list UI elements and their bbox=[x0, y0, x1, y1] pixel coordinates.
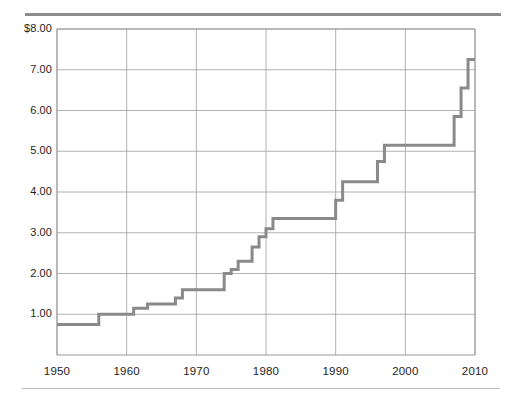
figure: 1.002.003.004.005.006.007.00$8.00 195019… bbox=[0, 0, 512, 405]
plot-area: 1.002.003.004.005.006.007.00$8.00 195019… bbox=[0, 0, 512, 405]
y-axis-tick-label: 1.00 bbox=[4, 308, 52, 319]
y-axis-tick-label: 5.00 bbox=[4, 145, 52, 156]
y-axis-tick-label: 2.00 bbox=[4, 268, 52, 279]
x-axis-tick-label: 1980 bbox=[241, 365, 291, 377]
x-axis-tick-label: 1970 bbox=[171, 365, 221, 377]
grid-lines bbox=[57, 29, 475, 355]
bottom-horizontal-rule bbox=[22, 388, 500, 389]
x-axis-tick-label: 1960 bbox=[102, 365, 152, 377]
x-axis-tick-label: 2000 bbox=[380, 365, 430, 377]
y-axis-tick-label: 7.00 bbox=[4, 64, 52, 75]
x-axis-tick-label: 2010 bbox=[450, 365, 500, 377]
y-axis-tick-label: $8.00 bbox=[4, 23, 52, 34]
x-axis-tick-label: 1950 bbox=[32, 365, 82, 377]
x-axis-tick-label: 1990 bbox=[311, 365, 361, 377]
y-axis-tick-label: 3.00 bbox=[4, 227, 52, 238]
chart-svg bbox=[0, 0, 512, 405]
y-axis-tick-label: 6.00 bbox=[4, 105, 52, 116]
y-axis-tick-label: 4.00 bbox=[4, 186, 52, 197]
